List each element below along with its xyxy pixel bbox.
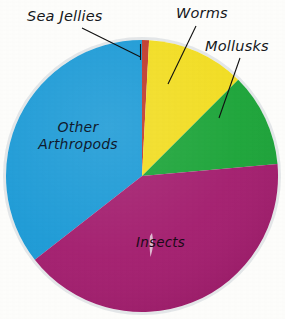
slice-label-other-arthropods-line2: Arthropods	[38, 136, 118, 152]
pie-chart-figure: Sea Jellies Worms Mollusks Other Arthrop…	[0, 0, 285, 319]
slice-label-insects: Insects	[136, 235, 185, 251]
pie-sheen-overlay	[6, 40, 278, 312]
slice-label-other-arthropods-line1: Other	[58, 119, 99, 135]
slice-label-worms: Worms	[176, 5, 228, 21]
slice-label-mollusks: Mollusks	[205, 38, 269, 54]
slice-label-sea-jellies: Sea Jellies	[27, 8, 103, 24]
slice-label-other-arthropods: Other Arthropods	[26, 119, 130, 152]
